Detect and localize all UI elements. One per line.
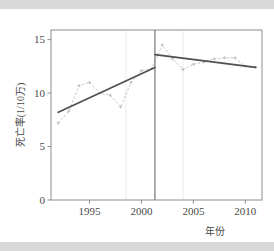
y-tick-label: 10 [34,87,46,99]
y-tick-label: 5 [40,140,46,152]
y-axis-title: 死亡率(1/10万) [14,83,27,147]
joinpoint-regression-chart: 051015 1995200020052010 死亡率(1/10万) 年份 [0,9,274,242]
top-gray-band [0,0,274,9]
x-tick-label: 2000 [130,205,153,217]
x-tick-label: 1995 [78,205,101,217]
y-tick-label: 0 [40,194,46,206]
bottom-gray-band [0,242,274,251]
x-axis: 1995200020052010 [78,200,256,217]
x-axis-title: 年份 [205,225,225,237]
chart-figure: 051015 1995200020052010 死亡率(1/10万) 年份 [0,9,274,242]
x-tick-label: 2005 [182,205,205,217]
y-tick-label: 15 [34,33,46,45]
x-tick-label: 2010 [234,205,257,217]
y-axis: 051015 [34,33,51,205]
